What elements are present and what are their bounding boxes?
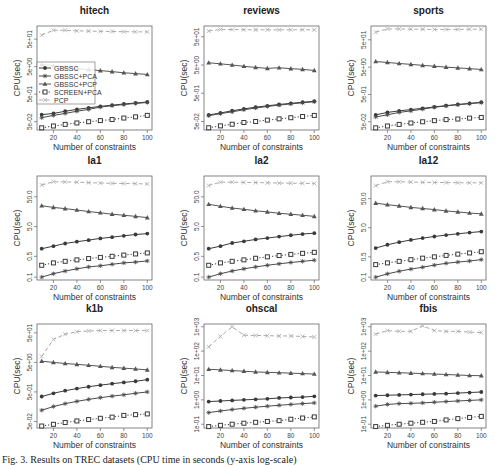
series-line <box>209 63 315 71</box>
marker-star <box>86 107 90 111</box>
marker-square <box>230 122 234 126</box>
y-tick-label: 1e-01 <box>193 416 200 433</box>
marker-square <box>432 119 436 123</box>
marker-x <box>40 33 44 37</box>
marker-circle <box>432 235 436 239</box>
x-tick-label: 60 <box>431 134 439 141</box>
panel-la12: la1220406080100Number of constraints0.10… <box>334 150 501 300</box>
y-tick-label: 5e-02 <box>26 113 33 130</box>
marker-circle <box>75 387 79 391</box>
panel-title: hitech <box>80 5 109 16</box>
marker-star <box>242 406 246 410</box>
marker-square <box>207 425 211 429</box>
marker-square <box>207 263 211 267</box>
marker-circle <box>409 238 413 242</box>
marker-star <box>385 272 389 276</box>
marker-square <box>421 256 425 260</box>
series-line <box>376 232 482 249</box>
marker-circle <box>122 234 126 238</box>
series-gbssc <box>40 378 149 399</box>
x-tick-label: 60 <box>264 284 272 291</box>
marker-square <box>51 124 55 128</box>
x-axis-label: Number of constraints <box>53 440 136 450</box>
marker-star <box>86 265 90 269</box>
series-line <box>209 233 315 249</box>
legend-label: SCREEN+PCA <box>54 89 102 96</box>
panel-la1: la120406080100Number of constraints0.10.… <box>0 150 167 300</box>
marker-star <box>145 390 149 394</box>
marker-star <box>456 399 460 403</box>
marker-star <box>373 115 377 119</box>
series-pcp <box>207 325 317 349</box>
marker-circle <box>219 399 223 403</box>
x-tick-label: 20 <box>50 284 58 291</box>
panel-sports: sports20406080100Number of constraints5e… <box>334 0 501 150</box>
marker-square <box>432 255 436 259</box>
marker-square <box>110 118 114 122</box>
marker-circle <box>265 397 269 401</box>
legend-label: GBSSC+PCA <box>54 73 97 80</box>
x-tick-label: 80 <box>287 432 295 439</box>
legend-label: GBSSC+PCP <box>54 81 97 88</box>
marker-triangle <box>206 202 211 206</box>
marker-star <box>218 111 222 115</box>
marker-star <box>133 260 137 264</box>
marker-circle <box>312 231 316 235</box>
y-axis-label: CPU(sec) <box>346 209 356 246</box>
x-tick-label: 80 <box>120 284 128 291</box>
x-tick-label: 60 <box>431 284 439 291</box>
series-line <box>209 396 315 401</box>
marker-square <box>110 254 114 258</box>
marker-star <box>110 104 114 108</box>
marker-x <box>51 337 55 341</box>
y-tick-label: 5.0 <box>26 222 33 231</box>
marker-square <box>277 419 281 423</box>
marker-square <box>444 118 448 122</box>
marker-circle <box>87 385 91 389</box>
marker-x <box>40 354 44 358</box>
marker-star <box>289 102 293 106</box>
marker-star <box>444 261 448 265</box>
marker-star <box>39 275 43 279</box>
series-line <box>42 261 148 277</box>
marker-circle <box>386 393 390 397</box>
marker-circle <box>265 236 269 240</box>
x-tick-label: 20 <box>217 284 225 291</box>
marker-square <box>254 420 258 424</box>
x-tick-label: 20 <box>217 134 225 141</box>
x-tick-label: 20 <box>384 284 392 291</box>
marker-star <box>110 394 114 398</box>
series-line <box>42 361 148 370</box>
panel-title: la2 <box>255 155 269 166</box>
marker-square <box>218 124 222 128</box>
marker-square <box>456 117 460 121</box>
marker-star <box>253 106 257 110</box>
marker-circle <box>40 395 44 399</box>
marker-square <box>479 250 483 254</box>
marker-square <box>40 126 44 130</box>
y-tick-label: 50.0 <box>26 190 33 203</box>
marker-circle <box>374 246 378 250</box>
marker-square <box>397 122 401 126</box>
marker-circle <box>43 66 47 70</box>
panel-ohscal: ohscal20406080100Number of constraints1e… <box>167 298 334 448</box>
marker-triangle <box>39 359 44 363</box>
marker-star <box>86 397 90 401</box>
marker-star <box>218 272 222 276</box>
y-tick-label: 50.0 <box>360 192 367 205</box>
series-gbssc <box>374 390 483 397</box>
marker-square <box>134 252 138 256</box>
legend: GBSSCGBSSC+PCAGBSSC+PCPSCREEN+PCAPCP <box>37 62 102 104</box>
marker-circle <box>122 381 126 385</box>
marker-star <box>51 272 55 276</box>
marker-star <box>206 410 210 414</box>
marker-square <box>145 251 149 255</box>
x-axis-label: Number of constraints <box>387 440 470 450</box>
marker-square <box>63 259 67 263</box>
legend-label: PCP <box>54 97 69 104</box>
marker-square <box>301 251 305 255</box>
marker-circle <box>301 232 305 236</box>
panel-svg-la12: la1220406080100Number of constraints0.10… <box>334 150 501 300</box>
series-line <box>209 403 315 413</box>
series-line <box>209 102 315 116</box>
